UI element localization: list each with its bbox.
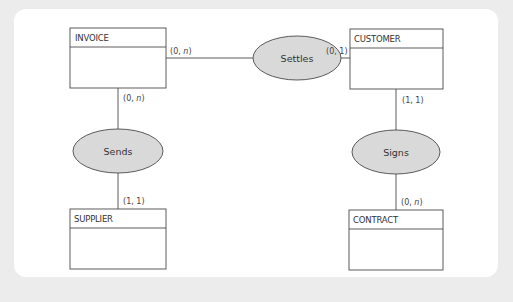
relationship-settles[interactable]: Settles: [253, 36, 341, 80]
entity-name: SUPPLIER: [74, 214, 113, 224]
relationship-signs[interactable]: Signs: [352, 130, 440, 174]
entity-customer[interactable]: CUSTOMER: [350, 29, 443, 89]
relationship-name: Sends: [104, 146, 133, 157]
cardinality-invoice-settles: (0, n): [170, 47, 192, 56]
relationship-name: Signs: [383, 147, 409, 158]
er-diagram: INVOICE CUSTOMER SUPPLIER CONTRACT Settl…: [0, 0, 513, 302]
entity-name: INVOICE: [75, 33, 109, 43]
entity-contract[interactable]: CONTRACT: [349, 210, 443, 270]
entity-name: CONTRACT: [353, 215, 399, 225]
cardinality-supplier-sends: (1, 1): [123, 197, 145, 206]
relationship-sends[interactable]: Sends: [73, 129, 163, 173]
entity-invoice[interactable]: INVOICE: [70, 28, 166, 88]
relationship-name: Settles: [281, 53, 314, 64]
cardinality-invoice-sends: (0, n): [123, 94, 145, 103]
cardinality-customer-settles: (0, 1): [326, 47, 348, 56]
cardinality-customer-signs: (1, 1): [402, 96, 424, 105]
entity-supplier[interactable]: SUPPLIER: [70, 209, 166, 269]
entity-name: CUSTOMER: [354, 34, 401, 44]
cardinality-contract-signs: (0, n): [401, 198, 423, 207]
